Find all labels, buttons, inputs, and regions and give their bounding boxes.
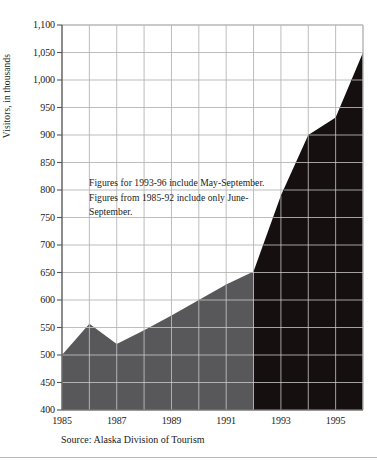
source-caption: Source: Alaska Division of Tourism — [61, 434, 205, 445]
x-axis-tick-label: 1995 — [326, 416, 346, 426]
x-axis-tick-label: 1993 — [271, 416, 291, 426]
footnote-annotation: Figures for 1993-96 include May-Septembe… — [89, 176, 269, 220]
y-axis-ticks — [57, 25, 62, 410]
x-axis-tick-label: 1989 — [162, 416, 182, 426]
x-axis-tick-label: 1985 — [52, 416, 72, 426]
chart-figure: Visitors, in thousands 40045050055060065… — [0, 0, 377, 460]
area-series — [62, 271, 254, 410]
x-axis-tick-label: 1987 — [107, 416, 127, 426]
chart-plot-area — [0, 0, 377, 460]
area-series-group — [62, 53, 363, 411]
x-axis-tick-label: 1991 — [216, 416, 236, 426]
bottom-divider — [0, 457, 377, 458]
